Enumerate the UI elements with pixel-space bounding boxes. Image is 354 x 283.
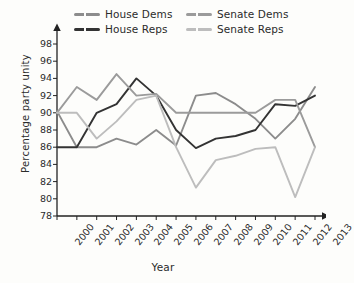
x-tick-label: 2013 xyxy=(331,222,353,247)
